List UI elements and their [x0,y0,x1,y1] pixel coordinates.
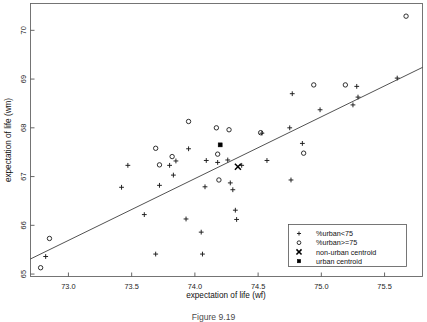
x-tick-label: 74.5 [251,282,265,291]
point-plus-marker [287,125,292,130]
point-plus-marker [153,252,158,257]
y-axis-ticks [31,30,35,274]
point-plus-marker [200,252,205,257]
point-circle-marker [227,128,231,132]
y-axis-tick-labels: 656667686970 [19,26,28,278]
point-circle-marker [343,83,347,87]
point-plus-marker [395,76,400,81]
point-x-marker [235,164,241,170]
point-circle-marker [215,152,219,156]
y-tick-label: 66 [19,221,28,229]
point-plus-marker [351,103,356,108]
point-plus-marker [230,187,235,192]
point-plus-marker [354,84,359,89]
point-circle-marker [186,119,190,123]
point-plus-marker [43,254,48,259]
point-plus-marker [167,163,172,168]
figure-container: 73.073.574.074.575.075.5 656667686970 ex… [0,0,427,322]
point-circle-marker [157,163,161,167]
y-tick-label: 69 [19,75,28,83]
y-tick-label: 65 [19,270,28,278]
point-square-marker [218,143,222,147]
point-plus-marker [125,163,130,168]
chart-legend: %urban<75%urban>=75non-urban centroidurb… [289,225,407,267]
point-circle-marker [217,178,221,182]
point-plus-marker [142,212,147,217]
point-plus-marker [318,107,323,112]
point-plus-marker [171,173,176,178]
point-plus-marker [234,217,239,222]
point-plus-marker [186,146,191,151]
x-axis-label: expectation of life (wf) [186,291,266,300]
point-plus-marker [215,160,220,165]
point-plus-marker [356,95,361,100]
y-tick-label: 70 [19,26,28,34]
x-tick-label: 74.0 [188,282,202,291]
legend-label-2: non-urban centroid [316,248,376,257]
point-circle-marker [312,83,316,87]
x-tick-label: 73.0 [61,282,75,291]
point-circle-marker [214,126,218,130]
point-plus-marker [300,141,305,146]
y-tick-label: 68 [19,124,28,132]
point-plus-marker [203,184,208,189]
point-circle-marker [301,151,305,155]
point-plus-marker [204,158,209,163]
y-axis-label: expectation of life (wm) [4,98,13,182]
point-circle-marker [38,266,42,270]
y-tick-label: 67 [19,172,28,180]
series-square-marker [218,143,222,147]
point-plus-marker [184,217,189,222]
point-plus-marker [174,159,179,164]
legend-label-0: %urban<75 [316,229,353,238]
point-plus-marker [199,230,204,235]
point-circle-marker [153,146,157,150]
point-plus-marker [290,91,295,96]
x-axis-ticks [68,273,384,277]
legend-label-1: %urban>=75 [316,238,357,247]
figure-caption-text: Figure 9.19 [192,312,235,322]
point-plus-marker [265,158,270,163]
series-x-marker [235,164,241,170]
legend-label-3: urban centroid [316,257,362,266]
point-circle-marker [47,236,51,240]
scatter-plot: 73.073.574.074.575.075.5 656667686970 ex… [0,0,427,322]
x-axis-tick-labels: 73.073.574.074.575.075.5 [61,282,392,291]
x-tick-label: 75.5 [377,282,391,291]
point-circle-marker [404,14,408,18]
point-plus-marker [289,178,294,183]
point-circle-marker [170,154,174,158]
x-tick-label: 75.0 [314,282,328,291]
x-tick-label: 73.5 [124,282,138,291]
point-plus-marker [157,183,162,188]
point-plus-marker [228,181,233,186]
point-plus-marker [233,208,238,213]
legend-square-marker [297,259,300,262]
figure-caption: Figure 9.19 [0,306,427,322]
point-plus-marker [119,185,124,190]
